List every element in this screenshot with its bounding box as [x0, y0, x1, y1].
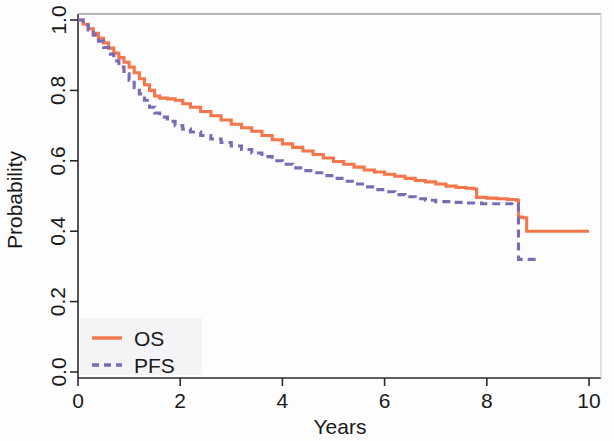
x-ticklabel-6: 6: [379, 389, 391, 412]
x-ticklabel-4: 4: [277, 389, 289, 412]
x-ticklabel-2: 2: [174, 389, 186, 412]
legend-label-pfs: PFS: [134, 354, 175, 377]
legend-label-os: OS: [134, 327, 164, 350]
y-ticklabel-0.0: 0.0: [47, 357, 70, 386]
y-ticklabel-0.2: 0.2: [47, 287, 70, 316]
y-ticklabel-1.0: 1.0: [47, 5, 70, 34]
y-axis-title: Probability: [3, 150, 26, 249]
chart-legend: OSPFS: [80, 318, 202, 377]
x-ticklabel-10: 10: [577, 389, 600, 412]
survival-plot-svg: 0.00.20.40.60.81.0 0246810 OSPFS Years P…: [0, 0, 614, 441]
x-ticklabel-8: 8: [481, 389, 493, 412]
x-ticklabel-0: 0: [72, 389, 84, 412]
kaplan-meier-figure: 0.00.20.40.60.81.0 0246810 OSPFS Years P…: [0, 0, 614, 441]
y-ticklabel-0.4: 0.4: [47, 216, 70, 246]
y-ticklabel-0.6: 0.6: [47, 146, 70, 175]
x-axis-title: Years: [314, 415, 367, 438]
y-ticklabel-0.8: 0.8: [47, 76, 70, 105]
